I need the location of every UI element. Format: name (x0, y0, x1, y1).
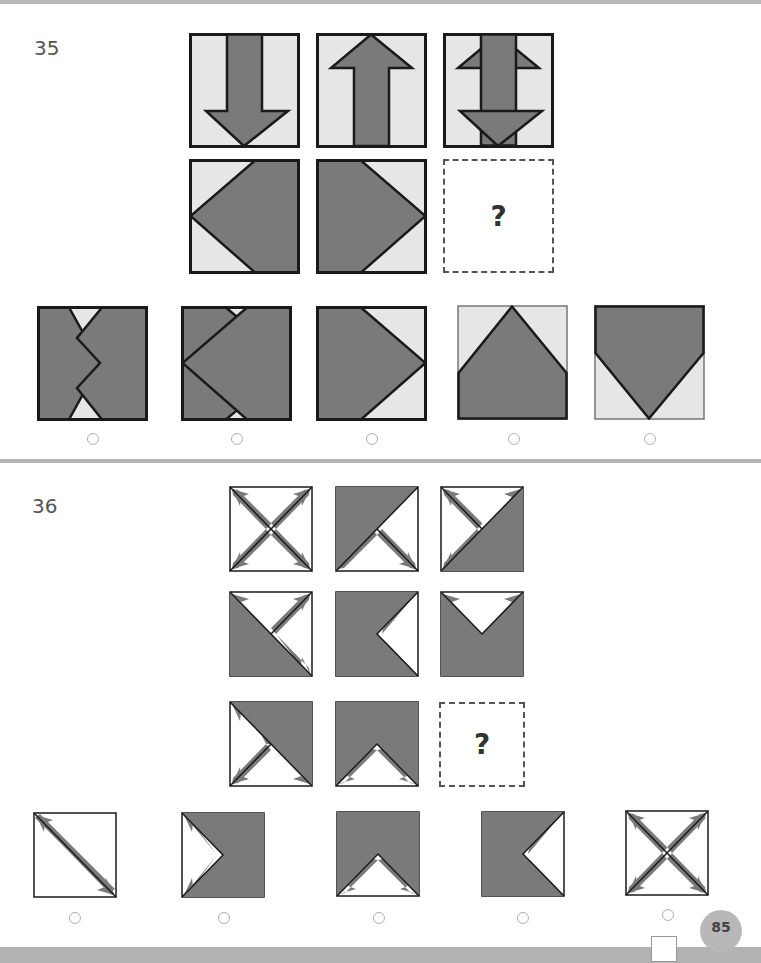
q35-option-4-radio[interactable] (508, 433, 520, 445)
q36-option-2[interactable] (181, 812, 265, 898)
q36-cell-shaded-top-right (229, 701, 313, 787)
question-mark: ? (490, 200, 506, 233)
q36-option-5-radio[interactable] (662, 909, 674, 921)
section-divider (0, 459, 761, 463)
top-bar (0, 0, 761, 4)
q35-option-1-radio[interactable] (87, 433, 99, 445)
q35-option-3-radio[interactable] (366, 433, 378, 445)
q36-cell-shaded-bottom (440, 591, 524, 677)
q36-option-4-radio[interactable] (517, 912, 529, 924)
q35-cell-arrow-down (189, 33, 300, 148)
q36-cell-shaded-bottom-right (440, 486, 524, 572)
q35-missing-cell: ? (443, 159, 554, 273)
q35-option-5[interactable] (594, 305, 705, 420)
q36-option-2-radio[interactable] (218, 912, 230, 924)
q35-option-2-radio[interactable] (231, 433, 243, 445)
q35-option-1[interactable] (37, 306, 148, 421)
q36-option-3[interactable] (336, 811, 420, 897)
q35-cell-arrow-overlay (443, 33, 554, 148)
q35-cell-arrow-up (316, 33, 427, 148)
question-number-36: 36 (32, 494, 57, 518)
score-checkbox[interactable] (651, 936, 677, 962)
q35-cell-pentagon-left (189, 159, 300, 274)
q35-option-3[interactable] (316, 306, 427, 421)
page-number-badge: 85 (700, 910, 742, 952)
q35-option-5-radio[interactable] (644, 433, 656, 445)
q36-option-3-radio[interactable] (373, 912, 385, 924)
q36-cell-shaded-top (335, 701, 419, 787)
q36-cell-shaded-top-left (335, 486, 419, 572)
q36-option-1[interactable] (33, 812, 117, 898)
q35-option-2[interactable] (181, 306, 292, 421)
q35-option-4[interactable] (457, 305, 568, 420)
q35-cell-pentagon-right (316, 159, 427, 274)
bottom-bar (0, 947, 761, 963)
q36-cell-shaded-bottom-left (229, 591, 313, 677)
q36-option-5[interactable] (625, 810, 709, 896)
q36-missing-cell: ? (439, 702, 525, 787)
q36-option-1-radio[interactable] (69, 912, 81, 924)
q36-option-4[interactable] (481, 811, 565, 897)
q36-cell-x-arrows (229, 486, 313, 572)
question-number-35: 35 (34, 36, 59, 60)
q36-cell-shaded-left (335, 591, 419, 677)
question-mark: ? (474, 728, 490, 761)
